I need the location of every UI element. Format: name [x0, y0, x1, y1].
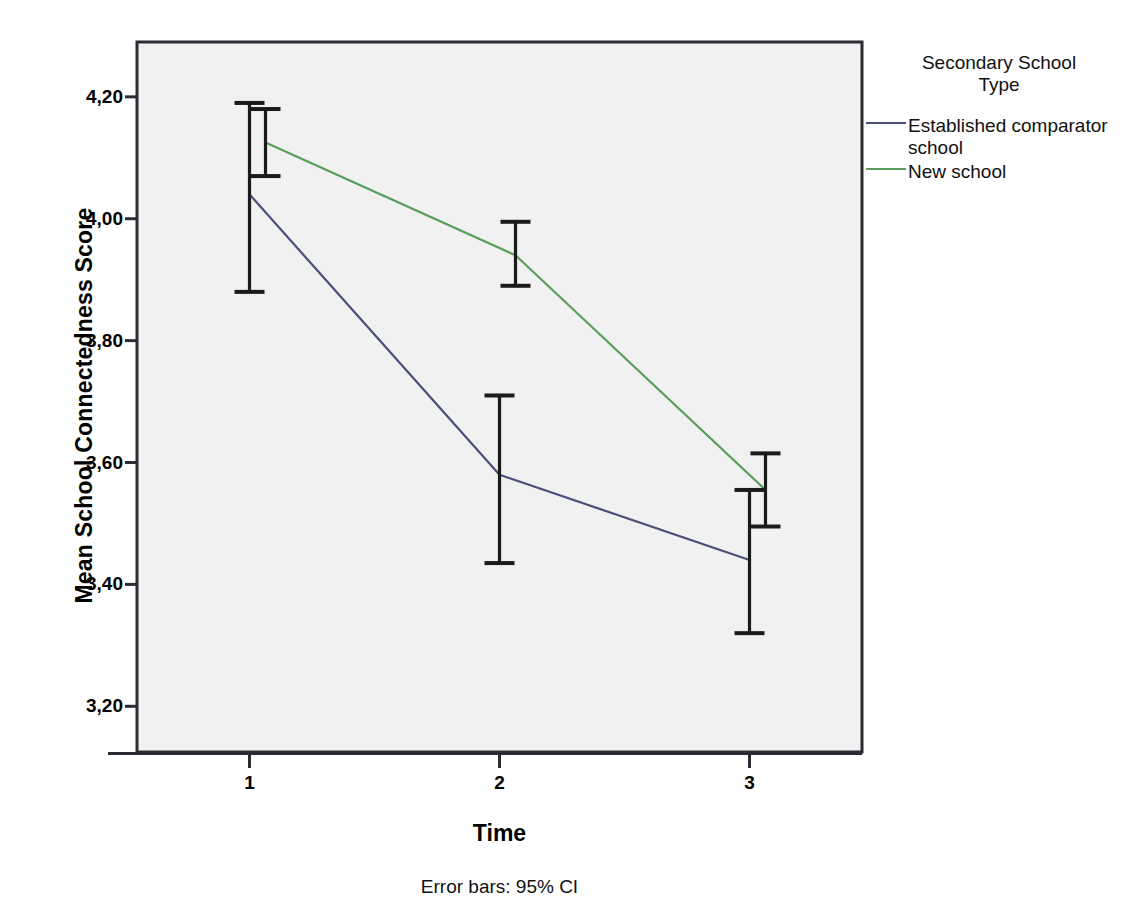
- y-axis-ticks: [125, 97, 137, 706]
- legend-color-swatch: [866, 115, 906, 130]
- legend-item-label: New school: [908, 161, 1006, 183]
- legend-title-line-1: Secondary School: [880, 52, 1118, 74]
- chart-footnote: Error bars: 95% CI: [137, 876, 862, 898]
- legend-item[interactable]: Established comparator school: [866, 115, 1138, 159]
- x-axis-title: Time: [137, 820, 862, 847]
- x-axis-tick-label: 3: [720, 772, 780, 794]
- legend-item-label: Established comparator school: [908, 115, 1138, 159]
- legend-item[interactable]: New school: [866, 161, 1138, 183]
- legend-color-swatch: [866, 161, 906, 176]
- legend-title-line-2: Type: [880, 74, 1118, 96]
- x-axis-tick-label: 1: [220, 772, 280, 794]
- legend-items: Established comparator schoolNew school: [866, 115, 1138, 183]
- legend: Secondary School Type Established compar…: [866, 52, 1138, 184]
- x-axis-ticks: [250, 754, 750, 768]
- chart-figure: Mean School Connectedness Score 3,203,40…: [0, 0, 1145, 912]
- legend-title: Secondary School Type: [880, 52, 1118, 97]
- x-axis-tick-label: 2: [470, 772, 530, 794]
